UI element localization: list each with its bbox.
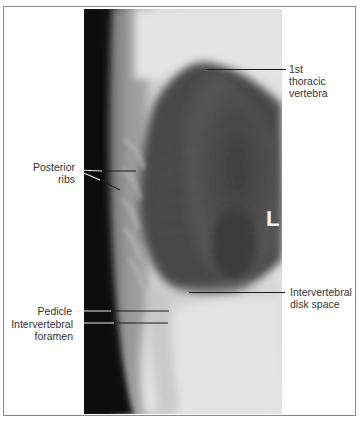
leader-line-intervertebral-disk-space <box>189 292 285 293</box>
label-intervertebral-disk-space: Intervertebral disk space <box>290 286 352 310</box>
leader-lines-pedicle-foramen <box>0 0 362 423</box>
